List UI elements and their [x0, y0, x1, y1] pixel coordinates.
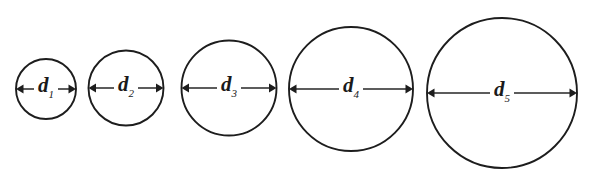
arrow-head-right-3: [269, 83, 277, 92]
diameter-label-subscript-3: 3: [231, 87, 238, 99]
diameter-label-base-3: d: [221, 72, 232, 96]
diameter-label-base-5: d: [494, 77, 505, 101]
circle-group-4: d4: [289, 27, 413, 151]
arrow-head-left-4: [289, 84, 297, 93]
diameter-label-base-1: d: [38, 73, 49, 97]
circle-group-5: d5: [427, 18, 577, 168]
diameter-label-subscript-5: 5: [505, 92, 511, 104]
circle-group-3: d3: [182, 41, 277, 136]
diameter-series-figure: d1d2d3d4d5: [0, 0, 590, 180]
arrow-head-right-5: [570, 88, 578, 97]
diameter-label-subscript-4: 4: [354, 88, 360, 100]
diameter-label-subscript-1: 1: [49, 88, 55, 100]
diameter-label-base-4: d: [343, 73, 354, 97]
arrow-head-right-2: [156, 83, 164, 92]
arrow-head-left-3: [182, 83, 190, 92]
figure-canvas: d1d2d3d4d5: [0, 0, 590, 180]
arrow-head-left-2: [89, 83, 97, 92]
arrow-head-right-4: [406, 84, 414, 93]
circle-group-1: d1: [16, 59, 76, 119]
diameter-label-base-2: d: [118, 72, 129, 96]
arrow-head-left-5: [427, 88, 435, 97]
diameter-label-subscript-2: 2: [129, 87, 135, 99]
circle-group-2: d2: [89, 51, 164, 126]
